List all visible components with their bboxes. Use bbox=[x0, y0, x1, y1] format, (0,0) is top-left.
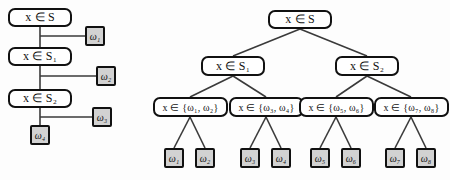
right-level2-node-s1[interactable]: x ∈ S₁ bbox=[201, 56, 265, 76]
left-decision-node-3[interactable]: x ∈ S₂ bbox=[8, 89, 72, 108]
edge-R-s1-to-g1 bbox=[190, 76, 233, 97]
edge-R-root-to-s2 bbox=[300, 29, 367, 56]
right-level3-node-group-4[interactable]: x ∈ {ω₇, ω₈} bbox=[374, 97, 449, 117]
left-leaf-omega-3[interactable]: ω₃ bbox=[92, 107, 112, 127]
right-leaf-omega-7[interactable]: ω₇ bbox=[385, 148, 405, 168]
left-decision-node-1[interactable]: x ∈ S bbox=[8, 8, 72, 27]
right-level2-node-s2[interactable]: x ∈ S₂ bbox=[335, 56, 399, 76]
edge-R-g1-to-w2 bbox=[190, 117, 205, 148]
edge-R-s2-to-g4 bbox=[367, 76, 411, 97]
left-decision-node-2-label: x ∈ S₁ bbox=[23, 49, 57, 64]
edge-R-g3-to-w6 bbox=[336, 117, 351, 148]
right-root-node[interactable]: x ∈ S bbox=[268, 10, 332, 29]
edge-R-g4-to-w8 bbox=[411, 117, 426, 148]
left-leaf-omega-1-label: ω₁ bbox=[90, 31, 101, 42]
decision-tree-figure: x ∈ S x ∈ S₁ x ∈ S₂ ω₁ ω₂ ω₃ ω₄ x ∈ S x … bbox=[0, 0, 450, 180]
right-leaf-omega-6-label: ω₆ bbox=[346, 153, 357, 164]
right-level3-node-group-2-label: x ∈ {ω₃, ω₄} bbox=[238, 102, 294, 113]
left-decision-node-1-label: x ∈ S bbox=[25, 10, 55, 25]
edge-R-g4-to-w7 bbox=[395, 117, 411, 148]
edge-R-s2-to-g3 bbox=[336, 76, 367, 97]
left-decision-node-3-label: x ∈ S₂ bbox=[23, 91, 57, 106]
right-leaf-omega-8[interactable]: ω₈ bbox=[416, 148, 436, 168]
right-level2-node-s1-label: x ∈ S₁ bbox=[216, 59, 250, 74]
edge-R-g1-to-w1 bbox=[174, 117, 190, 148]
left-leaf-omega-1[interactable]: ω₁ bbox=[85, 26, 105, 46]
right-level3-node-group-1-label: x ∈ {ω₁, ω₂} bbox=[162, 102, 218, 113]
right-level3-node-group-2[interactable]: x ∈ {ω₃, ω₄} bbox=[229, 97, 304, 117]
left-leaf-omega-2-label: ω₂ bbox=[101, 71, 112, 82]
left-decision-node-2[interactable]: x ∈ S₁ bbox=[8, 47, 72, 66]
edge-R-g2-to-w4 bbox=[266, 117, 281, 148]
right-leaf-omega-3-label: ω₃ bbox=[245, 153, 256, 164]
right-level3-node-group-1[interactable]: x ∈ {ω₁, ω₂} bbox=[153, 97, 228, 117]
right-leaf-omega-1-label: ω₁ bbox=[169, 153, 180, 164]
right-level3-node-group-4-label: x ∈ {ω₇, ω₈} bbox=[383, 102, 439, 113]
edge-R-g2-to-w3 bbox=[250, 117, 266, 148]
right-leaf-omega-3[interactable]: ω₃ bbox=[240, 148, 260, 168]
right-level3-node-group-3-label: x ∈ {ω₅, ω₆} bbox=[308, 102, 364, 113]
right-leaf-omega-4[interactable]: ω₄ bbox=[271, 148, 291, 168]
edge-R-s1-to-g2 bbox=[233, 76, 266, 97]
edge-R-root-to-s1 bbox=[233, 29, 300, 56]
left-leaf-omega-3-label: ω₃ bbox=[97, 112, 108, 123]
left-leaf-omega-2[interactable]: ω₂ bbox=[96, 66, 116, 86]
edge-R-g3-to-w5 bbox=[320, 117, 336, 148]
right-root-node-label: x ∈ S bbox=[285, 12, 315, 27]
right-leaf-omega-5[interactable]: ω₅ bbox=[310, 148, 330, 168]
right-level3-node-group-3[interactable]: x ∈ {ω₅, ω₆} bbox=[299, 97, 374, 117]
right-leaf-omega-8-label: ω₈ bbox=[421, 153, 432, 164]
right-leaf-omega-6[interactable]: ω₆ bbox=[341, 148, 361, 168]
right-leaf-omega-7-label: ω₇ bbox=[390, 153, 401, 164]
right-leaf-omega-4-label: ω₄ bbox=[276, 153, 287, 164]
right-leaf-omega-2[interactable]: ω₂ bbox=[195, 148, 215, 168]
right-leaf-omega-2-label: ω₂ bbox=[200, 153, 211, 164]
right-leaf-omega-1[interactable]: ω₁ bbox=[164, 148, 184, 168]
right-level2-node-s2-label: x ∈ S₂ bbox=[350, 59, 384, 74]
right-leaf-omega-5-label: ω₅ bbox=[315, 153, 326, 164]
left-leaf-omega-4[interactable]: ω₄ bbox=[30, 125, 50, 145]
left-leaf-omega-4-label: ω₄ bbox=[35, 130, 46, 141]
